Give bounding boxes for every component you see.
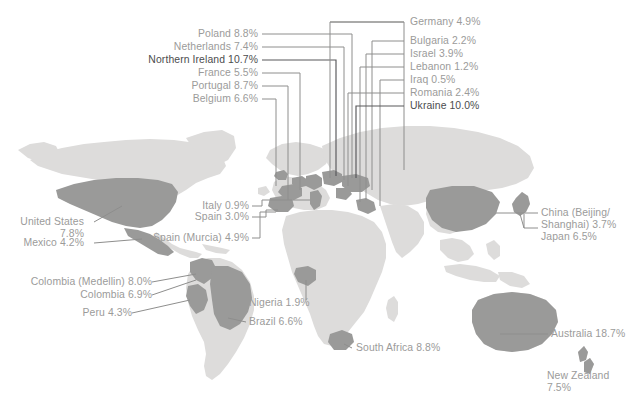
label-israel: Israel 3.9% — [410, 48, 463, 60]
leader-portugal — [262, 86, 288, 200]
label-colombia: Colombia 6.9% — [80, 289, 152, 301]
label-colombia-medellin: Colombia (Medellin) 8.0% — [31, 276, 152, 288]
leader-peru — [132, 300, 190, 313]
leader-colombia-medellin — [152, 274, 196, 282]
leader-netherlands — [262, 47, 344, 180]
leader-iraq — [380, 80, 404, 206]
label-iraq: Iraq 0.5% — [410, 74, 455, 86]
label-france: France 5.5% — [198, 67, 258, 79]
label-south-africa: South Africa 8.8% — [356, 342, 440, 354]
label-china-line2: Shanghai) 3.7% — [541, 219, 616, 231]
label-peru: Peru 4.3% — [83, 307, 132, 319]
label-new-zealand-line2: 7.5% — [547, 382, 571, 394]
world-map-infographic: Poland 8.8% Netherlands 7.4% Northern Ir… — [0, 0, 641, 415]
leader-brazil — [228, 318, 246, 322]
leader-northern-ireland — [262, 60, 336, 176]
leader-lebanon — [360, 67, 404, 202]
leader-spain — [252, 210, 278, 217]
label-netherlands: Netherlands 7.4% — [174, 41, 258, 53]
leader-bulgaria — [372, 41, 404, 190]
leader-belgium — [262, 99, 276, 186]
leader-japan — [520, 214, 538, 228]
label-ukraine: Ukraine 10.0% — [410, 100, 479, 112]
label-united-states: United States — [20, 216, 84, 228]
label-bulgaria: Bulgaria 2.2% — [410, 35, 476, 47]
leader-spain-murcia — [252, 212, 276, 238]
label-spain-murcia: Spain (Murcia) 4.9% — [153, 232, 249, 244]
leader-italy — [252, 200, 310, 206]
label-brazil: Brazil 6.6% — [249, 316, 303, 328]
label-new-zealand-line1: New Zealand — [547, 370, 609, 382]
label-northern-ireland: Northern Ireland 10.7% — [148, 54, 258, 66]
label-lebanon: Lebanon 1.2% — [410, 61, 478, 73]
label-australia: Australia 18.7% — [551, 328, 625, 340]
label-italy: Italy 0.9% — [202, 200, 249, 212]
leader-south-africa — [344, 344, 352, 348]
label-mexico: Mexico 4.2% — [23, 237, 84, 249]
label-belgium: Belgium 6.6% — [193, 93, 258, 105]
leader-united-states — [94, 206, 122, 222]
leader-france — [262, 73, 300, 190]
label-china-line1: China (Beijing/ — [541, 207, 610, 219]
label-romania: Romania 2.4% — [410, 87, 479, 99]
label-poland: Poland 8.8% — [198, 28, 258, 40]
label-germany: Germany 4.9% — [410, 16, 481, 28]
label-nigeria: Nigeria 1.9% — [249, 297, 310, 309]
label-japan: Japan 6.5% — [541, 231, 597, 243]
leader-mexico — [94, 239, 142, 243]
label-portugal: Portugal 8.7% — [191, 80, 258, 92]
label-spain: Spain 3.0% — [195, 211, 249, 223]
leader-colombia — [152, 280, 196, 295]
leader-germany — [330, 22, 404, 170]
